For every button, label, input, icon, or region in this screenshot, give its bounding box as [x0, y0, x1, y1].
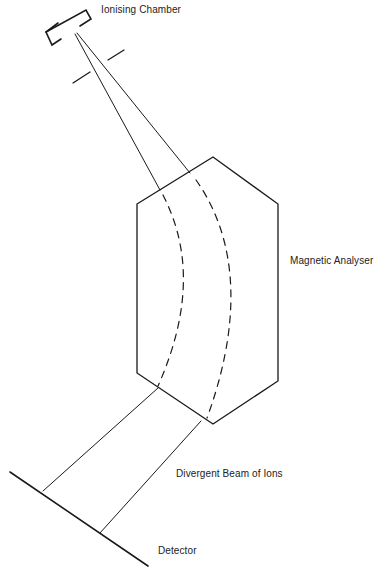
- label-ionising-chamber: Ionising Chamber: [101, 4, 181, 15]
- magnetic-analyser-body: [137, 157, 278, 424]
- label-detector: Detector: [158, 545, 197, 556]
- incident-beam: [75, 33, 190, 190]
- label-divergent-beam: Divergent Beam of Ions: [176, 468, 283, 479]
- ion-path-light: [158, 195, 183, 386]
- beam-line-right: [77, 33, 190, 173]
- beam-line-left: [75, 34, 160, 190]
- ionising-chamber: [46, 10, 91, 45]
- slit-upper: [108, 50, 124, 60]
- divergent-beam-line-1: [43, 388, 158, 491]
- ion-path-heavy: [196, 180, 231, 418]
- detector-plate: [10, 472, 148, 566]
- mass-spectrometer-diagram: [0, 0, 385, 579]
- slit-lower: [73, 72, 90, 83]
- label-magnetic-analyser: Magnetic Analyser: [290, 255, 373, 266]
- ion-paths: [158, 180, 231, 418]
